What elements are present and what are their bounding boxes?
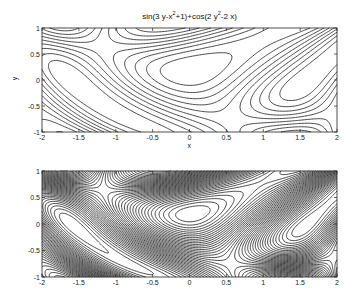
contour-lines (42, 171, 337, 277)
y-tick-label: -1 (34, 129, 40, 136)
x-tick-label: -1.5 (73, 279, 85, 286)
x-tick-label: 0.5 (222, 134, 232, 141)
figure: sin(3 y-x2+1)+cos(2 y2-2 x) x y (0, 0, 356, 296)
x-tick-label: -0.5 (147, 134, 159, 141)
contour-svg (42, 171, 337, 277)
x-axis-label: x (188, 142, 192, 149)
x-tick-label: -1 (113, 279, 119, 286)
x-tick-label: 2 (335, 134, 339, 141)
y-tick-label: 0 (36, 77, 40, 84)
y-axis-label: y (11, 77, 18, 81)
contour-lines (42, 28, 337, 132)
x-tick-label: 0 (188, 279, 192, 286)
y-tick-label: 0 (36, 221, 40, 228)
x-tick-label: 1 (261, 134, 265, 141)
y-tick-label: 1 (36, 168, 40, 175)
y-tick-label: -0.5 (28, 247, 40, 254)
x-tick-label: 0 (188, 134, 192, 141)
x-tick-label: -0.5 (147, 279, 159, 286)
contour-plot-coarse (42, 28, 337, 132)
x-tick-label: 1 (261, 279, 265, 286)
y-tick-label: -1 (34, 274, 40, 281)
x-tick-label: 2 (335, 279, 339, 286)
x-tick-label: -1 (113, 134, 119, 141)
x-tick-label: 1.5 (295, 279, 305, 286)
y-tick-label: 0.5 (30, 51, 40, 58)
contour-plot-fine (42, 171, 337, 277)
y-tick-label: 0.5 (30, 194, 40, 201)
x-tick-label: 1.5 (295, 134, 305, 141)
y-tick-label: 1 (36, 25, 40, 32)
y-tick-label: -0.5 (28, 103, 40, 110)
x-tick-label: -1.5 (73, 134, 85, 141)
chart-title: sin(3 y-x2+1)+cos(2 y2-2 x) (42, 10, 337, 21)
x-tick-label: 0.5 (222, 279, 232, 286)
contour-svg (42, 28, 337, 132)
